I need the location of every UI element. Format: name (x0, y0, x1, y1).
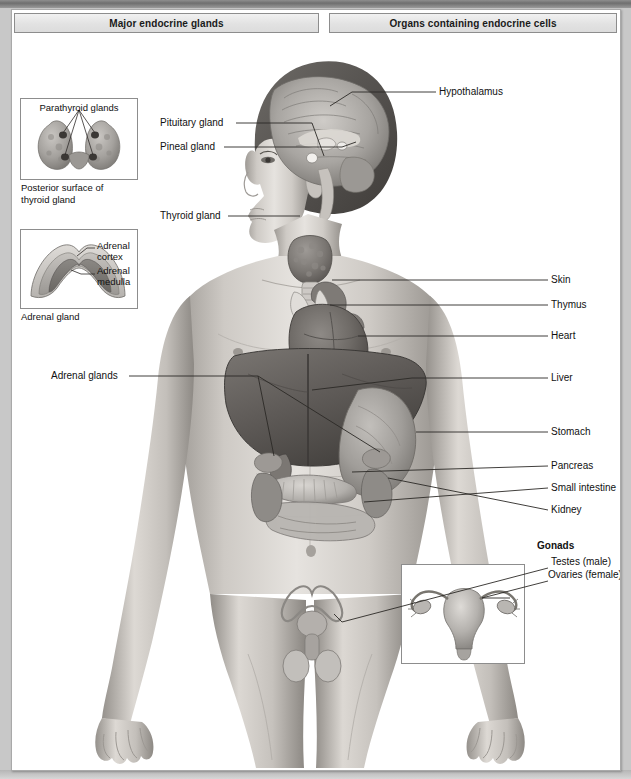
adrenal-inset-caption: Adrenal gland (21, 311, 151, 323)
header-organs-containing-endocrine-cells: Organs containing endocrine cells (329, 13, 617, 33)
bottom-border-band (0, 770, 631, 779)
pineal-gland-structure (337, 142, 347, 150)
header-left-label: Major endocrine glands (109, 18, 223, 29)
pituitary-gland-structure (307, 153, 318, 163)
parathyroid-inset-title: Parathyroid glands (21, 102, 137, 113)
endocrine-system-figure-page: Major endocrine glands Organs containing… (0, 0, 631, 779)
label-testes-male: Testes (male) (551, 556, 611, 567)
label-ovaries-female: Ovaries (female) (548, 569, 621, 580)
female-reproductive-inset-panel (401, 564, 525, 664)
label-gonads-heading: Gonads (537, 540, 574, 551)
ovary-structure (495, 598, 516, 616)
adrenal-cortex-label: Adrenal cortex (97, 240, 130, 262)
label-pineal-gland: Pineal gland (160, 141, 215, 152)
ovary-structure (411, 598, 432, 616)
label-hypothalamus: Hypothalamus (439, 86, 503, 97)
header-major-endocrine-glands: Major endocrine glands (14, 13, 319, 33)
label-skin: Skin (551, 274, 570, 285)
label-thyroid-gland: Thyroid gland (160, 210, 221, 221)
label-thymus: Thymus (551, 299, 587, 310)
adrenal-inset-panel: Adrenal cortex Adrenal medulla (20, 229, 138, 309)
label-pancreas: Pancreas (551, 460, 593, 471)
parathyroid-inset-panel: Parathyroid glands (20, 98, 138, 180)
figure-sheet: Major endocrine glands Organs containing… (11, 9, 621, 771)
label-kidney: Kidney (551, 504, 582, 515)
label-adrenal-glands: Adrenal glands (51, 370, 118, 381)
label-heart: Heart (551, 330, 575, 341)
head-group (244, 61, 397, 243)
label-stomach: Stomach (551, 426, 590, 437)
header-right-label: Organs containing endocrine cells (389, 18, 556, 29)
parathyroid-inset-caption: Posterior surface of thyroid gland (21, 182, 151, 205)
label-liver: Liver (551, 372, 573, 383)
label-small-intestine: Small intestine (551, 482, 616, 493)
top-border-band (0, 0, 631, 8)
label-pituitary-gland: Pituitary gland (160, 117, 223, 128)
adrenal-medulla-label: Adrenal medulla (97, 265, 130, 287)
